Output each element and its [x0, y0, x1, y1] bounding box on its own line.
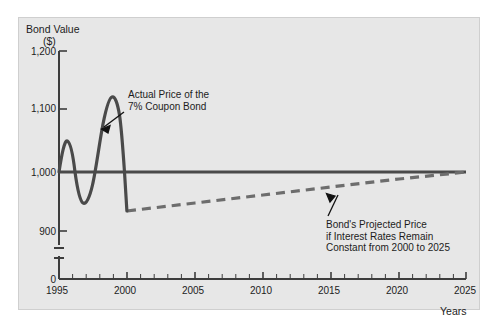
x-tick-label-1995: 1995: [34, 285, 80, 296]
x-tick-label-2000: 2000: [102, 285, 148, 296]
annotation-actual-price: Actual Price of the 7% Coupon Bond: [128, 89, 209, 112]
x-tick-label-2010: 2010: [238, 285, 284, 296]
x-major-ticks: [127, 272, 466, 279]
y-tick-label-1200: 1,200: [16, 46, 56, 57]
x-tick-label-2020: 2020: [374, 285, 420, 296]
y-tick-label-1000: 1,000: [16, 167, 56, 178]
y-tick-label-0: 0: [16, 274, 56, 285]
y-tick-label-900: 900: [16, 226, 56, 237]
x-tick-label-2005: 2005: [170, 285, 216, 296]
x-axis-title: Years: [440, 306, 466, 317]
annotation-projected-price: Bond's Projected Price if Interest Rates…: [326, 219, 450, 254]
chart-figure: Bond Value ($) Years 1,200 1,100 1,000 9…: [0, 0, 497, 331]
x-tick-label-2015: 2015: [306, 285, 352, 296]
y-tick-label-1100: 1,100: [16, 103, 56, 114]
chart-canvas: [0, 0, 497, 331]
annotation-arrow-projected: [327, 194, 339, 217]
y-axis-title: Bond Value: [26, 24, 80, 35]
projected-price-line: [127, 172, 466, 211]
actual-price-line: [59, 97, 127, 211]
x-tick-label-2025: 2025: [442, 285, 488, 296]
